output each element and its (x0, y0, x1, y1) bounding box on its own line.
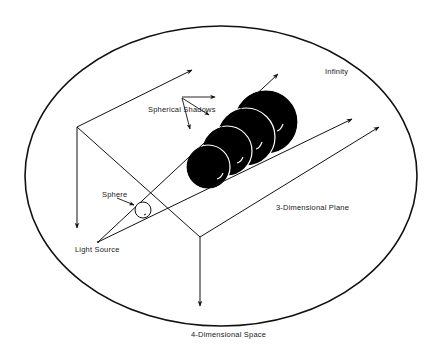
label-light-source: Light Source (75, 245, 120, 254)
label-infinity: Infinity (325, 67, 348, 76)
plane-axes (77, 70, 379, 306)
axis-arrow-top (77, 70, 192, 127)
shadow-1 (186, 145, 230, 189)
light-source-point (97, 241, 99, 243)
plane-diagonal-edge (77, 127, 200, 237)
label-three-d-plane: 3-Dimensional Plane (276, 203, 349, 212)
label-spherical-shadows: Spherical Shadows (148, 105, 216, 114)
diagram-canvas: Infinity Spherical Shadows Sphere 3-Dime… (0, 0, 444, 359)
diagram-svg (0, 0, 444, 359)
sphere (135, 202, 151, 218)
label-four-d-space: 4-Dimensional Space (191, 330, 266, 339)
label-sphere: Sphere (102, 190, 127, 199)
